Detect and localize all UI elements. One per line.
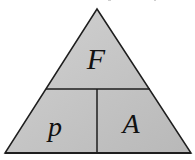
pressure-variable-label: p [48,113,62,141]
area-variable-label: A [122,110,139,138]
cropped-caption-fragment [104,0,164,2]
triangle-graphic [0,0,195,160]
triangle-body [5,9,191,153]
force-variable-label: F [87,44,105,74]
formula-triangle-diagram: F p A [0,0,195,160]
